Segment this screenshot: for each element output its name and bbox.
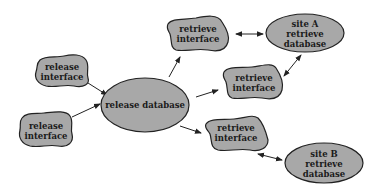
node-label-line-2: interface xyxy=(25,131,69,141)
node-label-line-2: interface xyxy=(41,72,85,82)
node-release-interface-1[interactable]: release interface xyxy=(35,55,88,87)
edge-release-if-2-to-release-db xyxy=(72,104,100,117)
node-label-line-1: retrieve xyxy=(217,123,255,133)
edge-release-db-to-retrieve-if-top xyxy=(169,57,180,77)
node-label-line-2: interface xyxy=(233,83,277,93)
node-label-line-3: database xyxy=(284,39,327,49)
node-label-line-1: site B xyxy=(310,149,338,159)
node-label-line-1: site A xyxy=(292,19,319,29)
node-label-line-1: release xyxy=(29,121,64,131)
node-label-line-1: release database xyxy=(105,100,185,110)
node-label-line-3: database xyxy=(303,169,346,179)
node-retrieve-interface-middle[interactable]: retrieve interface xyxy=(223,65,282,99)
node-label-line-1: retrieve xyxy=(179,24,217,34)
edge-release-if-1-to-release-db xyxy=(88,83,107,95)
node-label-line-2: retrieve xyxy=(286,29,324,39)
edge-retrieve-if-bot-to-site-b-db xyxy=(258,154,282,160)
edge-release-db-to-retrieve-if-mid xyxy=(196,90,218,97)
node-release-database[interactable]: release database xyxy=(101,78,189,132)
node-label-line-2: interface xyxy=(177,34,221,44)
node-label-line-1: release xyxy=(45,62,80,72)
edge-retrieve-if-mid-to-site-a-db xyxy=(284,55,301,76)
node-release-interface-2[interactable]: release interface xyxy=(19,112,72,147)
node-retrieve-interface-bottom[interactable]: retrieve interface xyxy=(205,116,268,150)
node-retrieve-interface-top[interactable]: retrieve interface xyxy=(167,16,228,51)
node-label-line-2: retrieve xyxy=(305,159,343,169)
diagram-canvas: release interface release interface rele… xyxy=(0,0,383,191)
node-label-line-2: interface xyxy=(215,133,259,143)
node-site-a-retrieve-database[interactable]: site A retrieve database xyxy=(266,14,344,52)
edge-release-db-to-retrieve-if-bot xyxy=(180,126,201,133)
node-label-line-1: retrieve xyxy=(235,73,273,83)
node-site-b-retrieve-database[interactable]: site B retrieve database xyxy=(285,143,363,183)
